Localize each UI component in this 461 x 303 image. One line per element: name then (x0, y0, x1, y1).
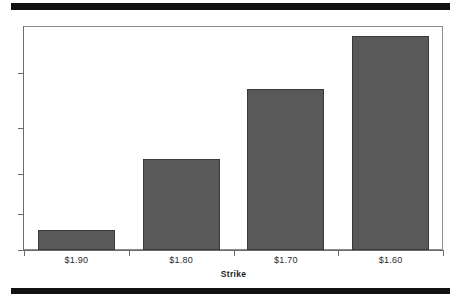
x-axis-title: Strike (24, 269, 443, 279)
x-tick-label: $1.70 (234, 255, 339, 265)
x-tick-label: $1.90 (24, 255, 129, 265)
bar-series (24, 27, 443, 250)
bar-slot (234, 27, 339, 250)
bar-slot (24, 27, 129, 250)
bar (352, 36, 429, 250)
bar (143, 159, 220, 250)
x-tick-label: $1.80 (129, 255, 234, 265)
x-tick-mark (443, 251, 444, 256)
bar-chart-figure: $1.90$1.80$1.70$1.60 Strike (0, 0, 461, 303)
x-axis-tick-labels: $1.90$1.80$1.70$1.60 (24, 255, 443, 265)
bar (38, 230, 115, 250)
bar-slot (129, 27, 234, 250)
top-black-rule (11, 3, 450, 10)
bar-slot (338, 27, 443, 250)
x-tick-label: $1.60 (338, 255, 443, 265)
bar (247, 89, 324, 250)
bottom-black-rule (11, 288, 450, 294)
